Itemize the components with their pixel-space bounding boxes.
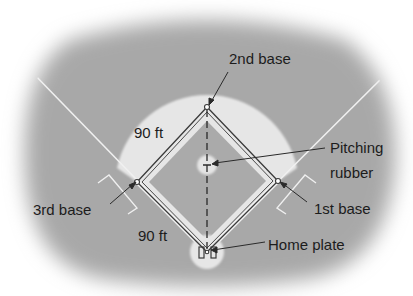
label-pitching-line1: Pitching xyxy=(330,139,383,156)
label-pitching-line2: rubber xyxy=(330,164,373,181)
label-second-base: 2nd base xyxy=(229,50,291,67)
label-home-plate: Home plate xyxy=(268,236,345,253)
label-side-upper: 90 ft xyxy=(134,124,164,141)
home-plate-icon xyxy=(205,250,209,254)
first-base-icon xyxy=(276,179,281,184)
label-third-base: 3rd base xyxy=(33,201,91,218)
label-first-base: 1st base xyxy=(314,200,371,217)
baseball-diamond-diagram: 2nd base Pitching rubber 3rd base 1st ba… xyxy=(0,0,413,296)
label-side-lower: 90 ft xyxy=(138,227,168,244)
